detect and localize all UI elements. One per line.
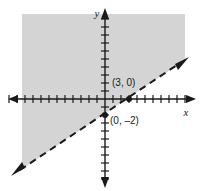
data-point-3-0	[126, 96, 132, 102]
y-axis-label: y	[94, 7, 100, 19]
graph-svg: y x (3, 0) (0, –2)	[0, 0, 204, 191]
point-label-3-0: (3, 0)	[112, 77, 135, 88]
data-point-0-neg2	[102, 112, 108, 118]
x-axis-arrow-right	[186, 95, 196, 103]
y-axis-arrow-up	[101, 8, 109, 19]
point-label-0-neg2: (0, –2)	[110, 115, 139, 126]
coordinate-graph-figure: y x (3, 0) (0, –2)	[0, 0, 204, 191]
boundary-line-arrow-lower-left	[11, 162, 25, 176]
x-axis-label: x	[183, 106, 189, 118]
